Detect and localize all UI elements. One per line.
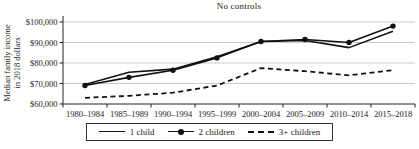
legend-box: 1 child 2 children 3+ children bbox=[86, 123, 333, 141]
solid-line-swatch-icon bbox=[99, 128, 125, 137]
x-tick-label: 1990–1994 bbox=[154, 109, 193, 119]
y-tick-label: $80,000 bbox=[30, 58, 58, 68]
legend-label-3plus-children: 3+ children bbox=[279, 127, 320, 137]
figure-no-controls-chart: No controls Median family income in 2018… bbox=[0, 0, 419, 149]
series-marker-2-children bbox=[346, 40, 351, 45]
dashed-line-swatch-icon bbox=[248, 128, 274, 137]
x-tick-label: 2005–2009 bbox=[286, 109, 324, 119]
legend-item-2-children: 2 children bbox=[168, 127, 235, 137]
legend-item-1-child: 1 child bbox=[99, 127, 155, 137]
x-tick-label: 2000–2004 bbox=[242, 109, 281, 119]
series-marker-2-children bbox=[258, 39, 263, 44]
series-marker-2-children bbox=[170, 67, 175, 72]
x-tick-label: 2015–2018 bbox=[374, 109, 412, 119]
legend-item-3plus-children: 3+ children bbox=[248, 127, 320, 137]
marker-line-swatch-icon bbox=[168, 128, 194, 137]
y-tick-label: $60,000 bbox=[30, 99, 58, 109]
legend: 1 child 2 children 3+ children bbox=[0, 123, 419, 141]
x-tick-label: 2010–2014 bbox=[330, 109, 369, 119]
y-tick-label: $70,000 bbox=[30, 79, 58, 89]
y-tick-label: $100,000 bbox=[26, 17, 58, 27]
series-marker-2-children bbox=[214, 55, 219, 60]
series-marker-2-children bbox=[126, 75, 131, 80]
x-tick-label: 1985–1989 bbox=[110, 109, 148, 119]
series-marker-2-children bbox=[302, 37, 307, 42]
series-marker-2-children bbox=[390, 23, 395, 28]
x-tick-label: 1995–1999 bbox=[198, 109, 236, 119]
x-tick-label: 1980–1984 bbox=[66, 109, 105, 119]
legend-label-2-children: 2 children bbox=[199, 127, 235, 137]
y-tick-label: $90,000 bbox=[30, 38, 58, 48]
series-marker-2-children bbox=[82, 83, 87, 88]
legend-label-1-child: 1 child bbox=[130, 127, 155, 137]
